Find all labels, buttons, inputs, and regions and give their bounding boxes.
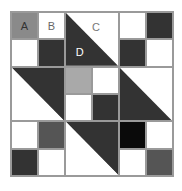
quilt-square bbox=[11, 39, 38, 66]
quilt-square bbox=[92, 67, 119, 94]
quilt-square bbox=[119, 121, 146, 148]
quilt-square bbox=[38, 39, 65, 66]
quilt-square bbox=[146, 39, 173, 66]
quilt-square bbox=[119, 149, 146, 176]
quilt-square bbox=[146, 149, 173, 176]
quilt-square bbox=[38, 149, 65, 176]
quilt-square bbox=[119, 12, 146, 39]
quilt-square bbox=[38, 121, 65, 148]
quilt-square bbox=[119, 39, 146, 66]
quilt-square bbox=[146, 12, 173, 39]
half-square-triangle bbox=[65, 12, 119, 67]
quilt-square bbox=[65, 67, 92, 94]
quilt-square bbox=[11, 12, 38, 39]
quilt-square bbox=[11, 121, 38, 148]
quilt-square bbox=[11, 149, 38, 176]
half-square-triangle bbox=[65, 121, 119, 176]
quilt-block-diagram: ABCD bbox=[11, 12, 173, 176]
quilt-square bbox=[38, 12, 65, 39]
quilt-square bbox=[92, 94, 119, 121]
half-square-triangle bbox=[119, 67, 173, 122]
half-square-triangle bbox=[11, 67, 65, 122]
quilt-square bbox=[65, 94, 92, 121]
quilt-square bbox=[146, 121, 173, 148]
